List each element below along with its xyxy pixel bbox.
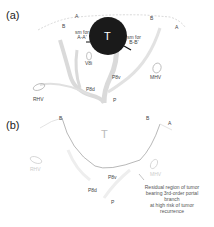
residual-annotation: Residual region of tumor bearing 3rd-ord…: [132, 184, 212, 214]
label-sm-aa: sm forA-A': [75, 30, 89, 40]
label-p-a: P: [113, 98, 116, 103]
label-p-b: P: [111, 200, 114, 205]
panel-a-label: (a): [6, 9, 19, 21]
label-p8v-b: P8v: [108, 175, 117, 180]
label-p8d-b: P8d: [88, 188, 97, 193]
label-b-right-b: B: [146, 116, 149, 121]
panel-b-label: (b): [6, 119, 19, 131]
label-sm-bb: sm forB-B': [127, 35, 141, 45]
label-mhv-b: MHV: [150, 172, 161, 177]
tumor-label-a: T: [104, 31, 111, 42]
label-b-right-a: B: [150, 16, 153, 21]
tumor-label-b: T: [101, 129, 108, 140]
label-a-left-a: A: [75, 14, 78, 19]
label-a-right-a: A: [175, 25, 178, 30]
label-v8i: V8i: [85, 61, 92, 66]
label-rhv-a: RHV: [33, 97, 44, 102]
panel-a-drawing: [32, 15, 185, 103]
label-rhv-b: RHV: [30, 167, 41, 172]
label-p8d-a: P8d: [86, 87, 95, 92]
label-p8v-a: P8v: [112, 75, 121, 80]
label-mhv-a: MHV: [150, 75, 161, 80]
label-b-left-a: B: [62, 24, 65, 29]
label-b-left-b: B: [59, 116, 62, 121]
label-a-right-b: A: [168, 121, 171, 126]
